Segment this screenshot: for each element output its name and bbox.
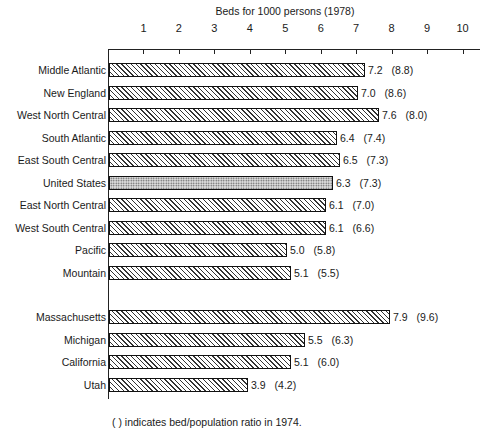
x-tick-label: 1 xyxy=(140,22,146,34)
value-label: 7.9(9.6) xyxy=(393,310,438,324)
value-1974: (6.0) xyxy=(318,356,340,368)
value-1974: (8.8) xyxy=(392,64,414,76)
category-label: South Atlantic xyxy=(42,131,106,145)
category-label: West South Central xyxy=(15,221,106,235)
bar xyxy=(109,221,326,235)
value-label: 6.1(6.6) xyxy=(329,221,374,235)
category-label: East South Central xyxy=(18,153,106,167)
bar xyxy=(109,355,291,369)
value-label: 5.1(6.0) xyxy=(294,355,339,369)
bar xyxy=(109,333,305,347)
x-axis-line xyxy=(108,49,480,50)
value-1974: (7.3) xyxy=(360,177,382,189)
category-label: Massachusetts xyxy=(36,310,106,324)
bar xyxy=(109,243,287,257)
bar xyxy=(109,378,248,392)
value-label: 5.0(5.8) xyxy=(290,243,335,257)
category-label: Middle Atlantic xyxy=(38,63,106,77)
x-tick-label: 10 xyxy=(456,22,468,34)
bar xyxy=(109,198,326,212)
value-label: 6.1(7.0) xyxy=(329,198,374,212)
category-label: Mountain xyxy=(63,266,106,280)
value-1974: (8.6) xyxy=(385,87,407,99)
value-1974: (4.2) xyxy=(275,379,297,391)
value-label: 6.4(7.4) xyxy=(340,131,385,145)
x-tick-label: 6 xyxy=(318,22,324,34)
value-1978: 6.1 xyxy=(329,199,344,211)
bar-chart: Beds for 1000 persons (1978) 12345678910… xyxy=(0,0,503,438)
bar xyxy=(109,131,337,145)
footnote: ( ) indicates bed/population ratio in 19… xyxy=(112,416,302,428)
bar xyxy=(109,310,390,324)
value-label: 5.5(6.3) xyxy=(308,333,353,347)
bar xyxy=(109,108,379,122)
value-label: 3.9(4.2) xyxy=(251,378,296,392)
x-axis-title: Beds for 1000 persons (1978) xyxy=(108,5,462,17)
x-tick-label: 5 xyxy=(282,22,288,34)
category-label: New England xyxy=(44,86,106,100)
value-1974: (7.0) xyxy=(353,199,375,211)
value-1974: (7.4) xyxy=(364,132,386,144)
value-1978: 5.0 xyxy=(290,244,305,256)
value-label: 6.5(7.3) xyxy=(343,153,388,167)
value-label: 7.0(8.6) xyxy=(361,86,406,100)
value-1974: (6.6) xyxy=(353,222,375,234)
value-1974: (9.6) xyxy=(417,311,439,323)
value-1974: (8.0) xyxy=(406,109,428,121)
value-1974: (6.3) xyxy=(332,334,354,346)
value-1978: 5.5 xyxy=(308,334,323,346)
bar xyxy=(109,153,340,167)
value-1974: (5.5) xyxy=(318,267,340,279)
value-1978: 6.3 xyxy=(336,177,351,189)
bar xyxy=(109,86,358,100)
value-label: 7.6(8.0) xyxy=(382,108,427,122)
x-tick-label: 2 xyxy=(176,22,182,34)
bar-national xyxy=(109,176,333,190)
value-1974: (5.8) xyxy=(314,244,336,256)
category-label: California xyxy=(62,355,106,369)
category-label: West North Central xyxy=(17,108,106,122)
category-label: Pacific xyxy=(75,243,106,257)
bar xyxy=(109,63,365,77)
category-label: Michigan xyxy=(64,333,106,347)
value-label: 5.1(5.5) xyxy=(294,266,339,280)
x-tick-label: 8 xyxy=(389,22,395,34)
bar xyxy=(109,266,291,280)
value-1978: 6.1 xyxy=(329,222,344,234)
category-label: East North Central xyxy=(20,198,106,212)
value-1978: 3.9 xyxy=(251,379,266,391)
category-label: Utah xyxy=(84,378,106,392)
value-label: 6.3(7.3) xyxy=(336,176,381,190)
value-1978: 7.0 xyxy=(361,87,376,99)
value-1978: 7.6 xyxy=(382,109,397,121)
x-tick-label: 9 xyxy=(424,22,430,34)
value-1978: 6.5 xyxy=(343,154,358,166)
value-1978: 7.2 xyxy=(368,64,383,76)
value-1974: (7.3) xyxy=(367,154,389,166)
category-label: United States xyxy=(43,176,106,190)
x-tick-label: 4 xyxy=(247,22,253,34)
x-tick-label: 7 xyxy=(353,22,359,34)
value-1978: 7.9 xyxy=(393,311,408,323)
value-1978: 6.4 xyxy=(340,132,355,144)
value-1978: 5.1 xyxy=(294,356,309,368)
x-tick-label: 3 xyxy=(211,22,217,34)
value-1978: 5.1 xyxy=(294,267,309,279)
value-label: 7.2(8.8) xyxy=(368,63,413,77)
